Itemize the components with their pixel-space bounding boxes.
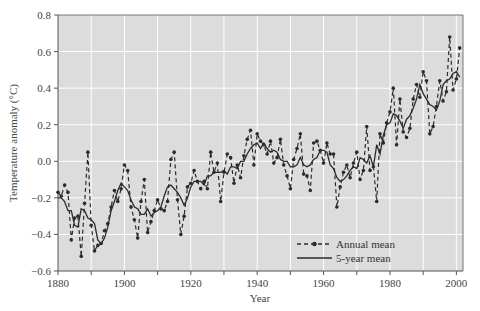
y-axis-title: Temperature anomaly (°C) xyxy=(7,84,20,202)
y-tick-label: 0.6 xyxy=(37,46,51,58)
legend-annual-marker xyxy=(312,242,317,247)
data-point xyxy=(86,150,90,154)
y-tick-label: 0.0 xyxy=(37,155,51,167)
data-point xyxy=(123,163,127,167)
data-point xyxy=(308,189,312,193)
y-tick-label: −0.6 xyxy=(31,265,51,277)
data-point xyxy=(348,176,352,180)
data-point xyxy=(103,229,107,233)
data-point xyxy=(375,200,379,204)
data-point xyxy=(451,88,455,92)
legend-annual-label: Annual mean xyxy=(336,238,395,250)
data-point xyxy=(372,165,376,169)
data-point xyxy=(226,152,230,156)
data-point xyxy=(362,169,366,173)
data-point xyxy=(249,128,253,132)
data-point xyxy=(378,132,382,136)
x-tick-label: 1880 xyxy=(47,277,70,289)
data-point xyxy=(325,141,329,145)
data-point xyxy=(245,138,249,142)
data-point xyxy=(143,178,147,182)
data-point xyxy=(358,178,362,182)
data-point xyxy=(206,187,210,191)
data-point xyxy=(56,191,60,195)
data-point xyxy=(176,198,180,202)
data-point xyxy=(312,141,316,145)
data-point xyxy=(425,79,429,83)
data-point xyxy=(391,86,395,90)
data-point xyxy=(385,121,389,125)
data-point xyxy=(408,127,412,131)
data-point xyxy=(202,180,206,184)
data-point xyxy=(332,152,336,156)
data-point xyxy=(335,205,339,209)
data-point xyxy=(388,110,392,114)
data-point xyxy=(299,132,303,136)
data-point xyxy=(166,200,170,204)
data-point xyxy=(133,218,137,222)
data-point xyxy=(279,138,283,142)
data-point xyxy=(139,200,143,204)
data-point xyxy=(146,231,150,235)
data-point xyxy=(405,136,409,140)
data-point xyxy=(438,79,442,83)
data-point xyxy=(189,181,193,185)
data-point xyxy=(219,200,223,204)
data-point xyxy=(315,139,319,143)
data-point xyxy=(242,154,246,158)
x-tick-label: 1940 xyxy=(246,277,269,289)
x-tick-label: 1900 xyxy=(113,277,136,289)
data-point xyxy=(222,170,226,174)
data-point xyxy=(186,185,190,189)
data-point xyxy=(79,255,83,259)
data-point xyxy=(411,97,415,101)
data-point xyxy=(162,209,166,213)
y-axis-ticks: −0.6−0.4−0.20.00.20.40.60.8 xyxy=(31,9,58,277)
data-point xyxy=(398,97,402,101)
data-point xyxy=(255,132,259,136)
data-point xyxy=(282,163,286,167)
data-point xyxy=(212,170,216,174)
x-axis-ticks: 1880190019201940196019802000 xyxy=(47,271,468,289)
legend-5year-label: 5-year mean xyxy=(336,252,391,264)
data-point xyxy=(73,216,77,220)
data-point xyxy=(355,150,359,154)
data-point xyxy=(113,189,117,193)
data-point xyxy=(60,194,64,198)
data-point xyxy=(421,70,425,74)
data-point xyxy=(285,174,289,178)
data-point xyxy=(435,105,439,109)
data-point xyxy=(66,191,70,195)
data-point xyxy=(159,207,163,211)
data-point xyxy=(136,236,140,240)
x-tick-label: 1920 xyxy=(180,277,203,289)
y-tick-label: −0.2 xyxy=(31,192,51,204)
data-point xyxy=(216,161,220,165)
data-point xyxy=(63,183,67,187)
data-point xyxy=(259,139,263,143)
data-point xyxy=(448,35,452,39)
data-point xyxy=(182,214,186,218)
data-point xyxy=(401,130,405,134)
data-point xyxy=(99,242,103,246)
data-point xyxy=(93,249,97,253)
data-point xyxy=(305,174,309,178)
data-point xyxy=(83,202,87,206)
data-point xyxy=(129,205,133,209)
x-tick-label: 2000 xyxy=(445,277,468,289)
data-point xyxy=(418,95,422,99)
data-point xyxy=(126,169,130,173)
data-point xyxy=(149,220,153,224)
data-point xyxy=(342,170,346,174)
x-tick-label: 1960 xyxy=(313,277,336,289)
data-point xyxy=(395,143,399,147)
y-tick-label: 0.4 xyxy=(37,82,51,94)
data-point xyxy=(338,185,342,189)
data-point xyxy=(455,77,459,81)
data-point xyxy=(445,90,449,94)
data-point xyxy=(196,180,200,184)
data-point xyxy=(235,163,239,167)
data-point xyxy=(302,172,306,176)
data-point xyxy=(116,200,120,204)
data-point xyxy=(415,83,419,87)
